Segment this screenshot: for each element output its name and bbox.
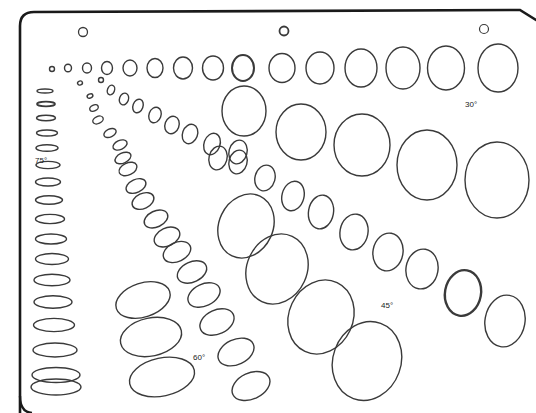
label-45: 45° [381,301,393,310]
label-60: 60° [193,353,205,362]
label-30: 30° [465,100,477,109]
ellipse-template: 30°75°45°60° [0,0,536,413]
background [0,0,536,413]
label-75: 75° [35,156,47,165]
